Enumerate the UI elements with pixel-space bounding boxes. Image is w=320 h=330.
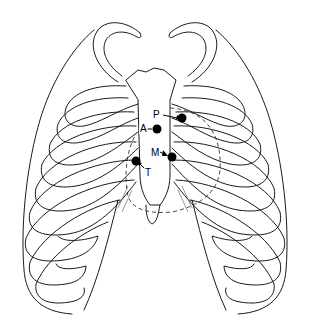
- point-marker-t: [132, 157, 141, 166]
- point-marker-a: [153, 125, 162, 134]
- ribcage-diagram: P A M T: [0, 0, 320, 330]
- point-label-m: M: [150, 148, 160, 158]
- point-marker-p: [178, 114, 187, 123]
- point-label-p: P: [152, 110, 161, 120]
- point-label-a: A: [139, 124, 148, 134]
- point-marker-m: [168, 153, 177, 162]
- ribcage-drawing: [0, 0, 320, 330]
- point-label-t: T: [144, 168, 152, 178]
